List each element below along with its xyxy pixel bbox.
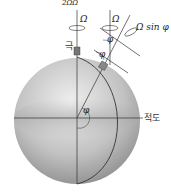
equator-label: 적도 — [144, 112, 160, 123]
pole-station-icon — [74, 47, 80, 55]
phi-label-center: φ — [83, 105, 90, 115]
omega-label-local: Ω — [111, 14, 120, 24]
perpendicular-line — [100, 28, 140, 56]
pole-label: 극 — [65, 41, 73, 51]
omega-label-pole: Ω — [79, 14, 88, 24]
phi-label-top: φ — [107, 34, 114, 44]
phi-label-tangent: φ — [99, 49, 106, 59]
omega-sin-phi-label: Ω sin φ — [135, 22, 169, 32]
title-partial: 2ΩΩ — [61, 0, 78, 7]
earth-rotation-diagram: 2ΩΩ Ω Ω Ω sin φ φ φ φ 극 적도 — [0, 0, 171, 193]
